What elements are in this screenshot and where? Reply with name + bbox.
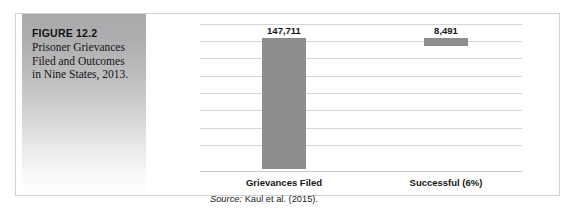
bar-item-successful[interactable]: 8,491 [424, 25, 468, 172]
chart-area: 147,711 8,491 Grievances Filed Successfu… [150, 14, 559, 195]
figure-caption: Prisoner Grievances Filed and Outcomes i… [32, 41, 136, 82]
caption-text-block: FIGURE 12.2 Prisoner Grievances Filed an… [32, 27, 142, 82]
figure-container: FIGURE 12.2 Prisoner Grievances Filed an… [0, 0, 572, 209]
bars-group: 147,711 8,491 [200, 24, 522, 172]
bar-rect[interactable] [424, 38, 468, 46]
category-axis: Grievances Filed Successful (6%) [200, 177, 522, 193]
source-prefix: Source: [210, 194, 242, 204]
source-citation: Kaul et al. (2015). [242, 194, 318, 204]
bar-value-label: 147,711 [267, 25, 301, 36]
caption-panel: FIGURE 12.2 Prisoner Grievances Filed an… [22, 14, 146, 195]
bar-item-grievances-filed[interactable]: 147,711 [262, 25, 306, 172]
source-note: Source: Kaul et al. (2015). [210, 194, 318, 204]
bar-value-label: 8,491 [434, 25, 458, 36]
category-label-successful: Successful (6%) [410, 177, 483, 188]
figure-number: FIGURE 12.2 [32, 27, 142, 40]
category-label-grievances-filed: Grievances Filed [246, 177, 322, 188]
bar-rect[interactable] [262, 38, 306, 169]
plot-region: 147,711 8,491 [200, 24, 522, 172]
